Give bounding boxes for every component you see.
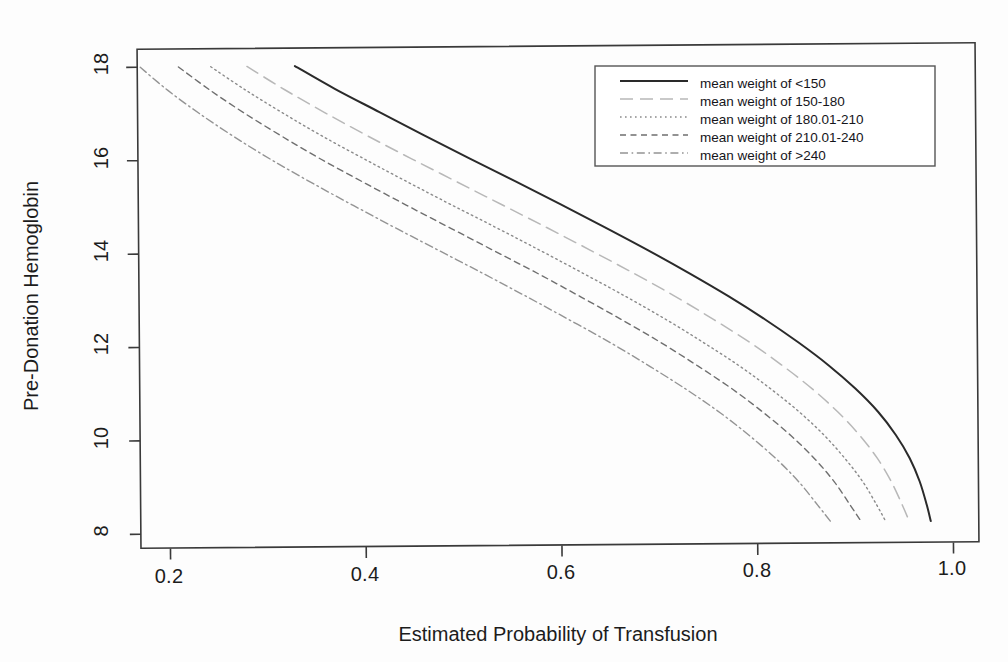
x-tick-label: 1.0 bbox=[938, 557, 966, 580]
legend-label: mean weight of 150-180 bbox=[700, 94, 845, 109]
y-axis-title: Pre-Donation Hemoglobin bbox=[20, 181, 43, 411]
legend-label: mean weight of 180.01-210 bbox=[700, 112, 864, 127]
x-tick-label: 0.4 bbox=[351, 563, 379, 586]
y-tick-label: 8 bbox=[90, 525, 113, 536]
legend-label: mean weight of <150 bbox=[700, 76, 826, 91]
x-tick-label: 0.8 bbox=[743, 559, 771, 582]
y-tick-label: 14 bbox=[90, 240, 113, 262]
x-tick-label: 0.2 bbox=[155, 565, 183, 588]
figure-container: 0.2 0.4 0.6 0.8 1.0 8 10 12 14 16 18 Est… bbox=[0, 0, 1008, 662]
plot-canvas bbox=[0, 0, 1008, 662]
y-tick-label: 18 bbox=[90, 53, 113, 75]
x-axis-title: Estimated Probability of Transfusion bbox=[398, 623, 717, 646]
y-tick-label: 12 bbox=[90, 333, 113, 355]
x-tick-label: 0.6 bbox=[547, 561, 575, 584]
y-tick-label: 10 bbox=[90, 427, 113, 449]
y-tick-label: 16 bbox=[90, 147, 113, 169]
legend-label: mean weight of >240 bbox=[700, 148, 826, 163]
legend-label: mean weight of 210.01-240 bbox=[700, 130, 864, 145]
